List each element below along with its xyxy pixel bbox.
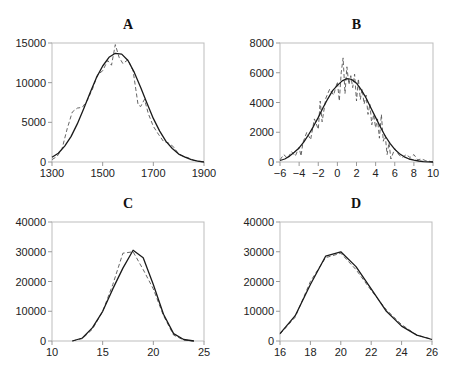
x-tick-label: 2 xyxy=(353,167,359,179)
y-tick-label: 20000 xyxy=(243,276,274,288)
x-tick-label: 1700 xyxy=(141,167,165,179)
y-tick-label: 30000 xyxy=(243,246,274,258)
y-tick-label: 8000 xyxy=(250,37,274,49)
x-tick-label: 20 xyxy=(147,346,159,358)
y-tick-label: 10000 xyxy=(243,305,274,317)
x-tick-label: 8 xyxy=(411,167,417,179)
series-line-model xyxy=(280,252,432,340)
y-tick-label: 5000 xyxy=(22,116,46,128)
x-tick-label: 0 xyxy=(334,167,340,179)
x-tick-label: 25 xyxy=(198,346,210,358)
panel-title: B xyxy=(352,17,361,32)
x-tick-label: 10 xyxy=(46,346,58,358)
panel-d: D010000200003000040000161820222426 xyxy=(243,196,438,358)
panel-b: B02000400060008000−6−4−20246810 xyxy=(250,17,440,179)
series-line-model xyxy=(280,79,433,162)
x-tick-label: 16 xyxy=(274,346,286,358)
y-tick-label: 10000 xyxy=(15,305,46,317)
series-line-observed xyxy=(52,45,204,162)
x-tick-label: −4 xyxy=(293,167,306,179)
y-tick-label: 30000 xyxy=(15,246,46,258)
panel-title: A xyxy=(123,17,134,32)
x-tick-label: 10 xyxy=(427,167,439,179)
y-tick-label: 15000 xyxy=(15,37,46,49)
panel-title: D xyxy=(351,196,361,211)
y-tick-label: 40000 xyxy=(15,216,46,228)
x-tick-label: 15 xyxy=(97,346,109,358)
x-tick-label: −2 xyxy=(312,167,325,179)
y-tick-label: 10000 xyxy=(15,77,46,89)
figure-canvas: A0500010000150001300150017001900 B020004… xyxy=(0,0,455,373)
x-tick-label: 4 xyxy=(373,167,379,179)
series-line-observed xyxy=(72,252,194,341)
y-tick-label: 20000 xyxy=(15,276,46,288)
plot-frame xyxy=(280,222,432,341)
y-tick-label: 4000 xyxy=(250,97,274,109)
x-tick-label: −6 xyxy=(274,167,287,179)
panel-c: C01000020000300004000010152025 xyxy=(15,196,210,358)
x-tick-label: 22 xyxy=(365,346,377,358)
x-tick-label: 24 xyxy=(395,346,407,358)
x-tick-label: 1300 xyxy=(40,167,64,179)
panel-a: A0500010000150001300150017001900 xyxy=(15,17,216,179)
x-tick-label: 26 xyxy=(426,346,438,358)
x-tick-label: 1900 xyxy=(192,167,216,179)
series-line-model xyxy=(52,53,204,162)
series-line-model xyxy=(72,250,194,341)
panel-title: C xyxy=(123,196,133,211)
y-tick-label: 6000 xyxy=(250,67,274,79)
x-tick-label: 1500 xyxy=(90,167,114,179)
plot-frame xyxy=(280,43,433,162)
x-tick-label: 18 xyxy=(304,346,316,358)
x-tick-label: 20 xyxy=(335,346,347,358)
series-line-observed xyxy=(280,58,433,162)
y-tick-label: 2000 xyxy=(250,126,274,138)
y-tick-label: 40000 xyxy=(243,216,274,228)
plot-frame xyxy=(52,222,204,341)
x-tick-label: 6 xyxy=(392,167,398,179)
